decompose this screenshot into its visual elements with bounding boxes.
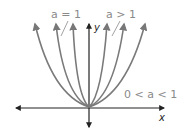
curve-a-less-1-left [35, 24, 89, 107]
leader-a-1 [61, 21, 68, 36]
parabola-diagram: a = 1 a > 1 0 < a < 1 y x [0, 0, 184, 138]
label-a-greater-1: a > 1 [106, 8, 136, 21]
curve-a-1-left [56, 24, 89, 107]
x-axis-label: x [158, 112, 165, 123]
label-a-equal-1: a = 1 [51, 8, 81, 21]
curve-a-greater-1-right [89, 24, 107, 107]
y-axis-label: y [93, 22, 101, 33]
leader-a-greater-1 [112, 21, 120, 36]
label-a-between-0-1: 0 < a < 1 [124, 88, 177, 101]
